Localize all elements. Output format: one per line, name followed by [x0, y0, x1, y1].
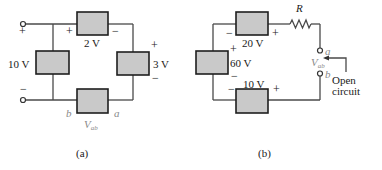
label-a-2v: 2 V: [84, 37, 100, 49]
polarity-a-3v-minus: −: [152, 71, 159, 85]
source-b-10v: [236, 89, 268, 113]
polarity-b-10v-plus: +: [273, 82, 280, 96]
annotation-circuit: circuit: [332, 85, 360, 97]
terminal-a-bottom-sign: −: [20, 82, 27, 96]
polarity-b-60v-plus: +: [230, 42, 237, 56]
polarity-b-20v-plus: +: [272, 26, 279, 40]
source-a-3v: [117, 52, 149, 75]
polarity-b-20v-minus: −: [226, 26, 233, 40]
label-a-3v: 3 V: [153, 58, 169, 70]
polarity-b-60v-minus: −: [231, 69, 238, 83]
source-a-2v: [77, 12, 108, 35]
node-a-b: b: [66, 107, 72, 119]
figure-b: R − + 20 V + 60 V − − 10 V + a Vab b Ope…: [196, 2, 360, 160]
source-a-10v: [36, 51, 69, 74]
label-b-vab: Vab: [311, 56, 325, 70]
node-b-a: a: [325, 45, 331, 57]
source-b-20v: [236, 12, 268, 35]
label-b-20v: 20 V: [242, 37, 264, 49]
resistor-r: [290, 20, 311, 28]
terminal-a-bottom: [21, 98, 26, 103]
polarity-a-3v-plus: +: [151, 38, 158, 52]
caption-b: (b): [258, 147, 271, 160]
element-a-vab: [77, 89, 108, 113]
terminal-a-top-sign: +: [19, 24, 26, 38]
node-b-b: b: [325, 68, 331, 80]
source-b-60v: [196, 51, 228, 74]
polarity-a-2v-plus: +: [66, 24, 73, 38]
label-a-vab: Vab: [84, 118, 98, 132]
label-b-10v: 10 V: [243, 78, 265, 90]
node-a-a: a: [114, 107, 120, 119]
terminal-b-b: [318, 71, 323, 76]
label-b-60v: 60 V: [230, 57, 252, 69]
polarity-a-2v-minus: −: [112, 24, 119, 38]
label-resistor-r: R: [295, 2, 303, 14]
caption-a: (a): [76, 147, 89, 160]
terminal-b-a: [318, 48, 323, 53]
polarity-b-10v-minus: −: [228, 82, 235, 96]
label-a-10v: 10 V: [8, 58, 30, 70]
figure-a: + − + − 2 V 10 V + 3 V − b a Vab (a): [8, 12, 169, 160]
circuit-figure: + − + − 2 V 10 V + 3 V − b a Vab (a): [0, 0, 382, 170]
